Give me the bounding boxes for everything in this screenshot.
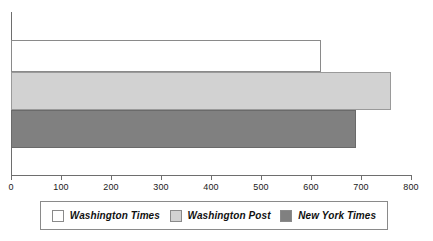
legend: Washington Times Washington Post New Yor… (40, 201, 388, 230)
legend-item-washington-times[interactable]: Washington Times (52, 210, 160, 222)
x-tick-100 (61, 176, 62, 180)
legend-swatch-washington-times (52, 210, 64, 222)
x-tick-label-500: 500 (241, 182, 281, 192)
x-tick-label-400: 400 (191, 182, 231, 192)
bar-washington-times (11, 40, 321, 72)
x-tick-label-200: 200 (91, 182, 131, 192)
x-tick-label-100: 100 (41, 182, 81, 192)
bar-washington-post (11, 72, 391, 110)
plot-area (11, 12, 411, 175)
legend-label-washington-post: Washington Post (188, 210, 271, 221)
legend-item-new-york-times[interactable]: New York Times (280, 210, 376, 222)
x-tick-label-300: 300 (141, 182, 181, 192)
legend-swatch-washington-post (170, 210, 182, 222)
x-tick-label-700: 700 (341, 182, 381, 192)
legend-label-washington-times: Washington Times (70, 210, 160, 221)
x-tick-400 (211, 176, 212, 180)
x-tick-label-0: 0 (0, 182, 31, 192)
x-tick-300 (161, 176, 162, 180)
legend-swatch-new-york-times (280, 210, 292, 222)
x-tick-500 (261, 176, 262, 180)
legend-item-washington-post[interactable]: Washington Post (170, 210, 271, 222)
x-tick-200 (111, 176, 112, 180)
bar-new-york-times (11, 110, 356, 148)
x-tick-600 (311, 176, 312, 180)
x-tick-label-600: 600 (291, 182, 331, 192)
legend-label-new-york-times: New York Times (298, 210, 376, 221)
x-tick-label-800: 800 (391, 182, 431, 192)
x-tick-800 (411, 176, 412, 180)
x-tick-0 (11, 176, 12, 180)
bar-chart: 0100200300400500600700800 Washington Tim… (0, 0, 433, 241)
x-tick-700 (361, 176, 362, 180)
